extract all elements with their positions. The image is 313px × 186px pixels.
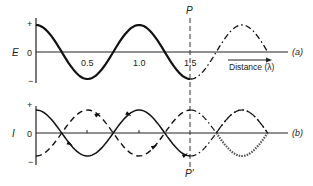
y-tick-plus-a: + (27, 19, 32, 29)
y-label-a: E (12, 47, 19, 58)
distance-label: Distance (λ) (229, 62, 275, 72)
y-tick-zero-a: 0 (27, 48, 32, 58)
y-label-b: I (12, 128, 15, 139)
y-tick-plus-b: + (27, 100, 32, 110)
i-wave-extension-lower (216, 110, 267, 133)
direction-arrowhead (94, 111, 101, 117)
x-tick-0-5: 0.5 (81, 58, 94, 68)
y-tick-minus-b: − (28, 157, 33, 167)
y-tick-minus-a: − (28, 76, 33, 86)
panel-a: E + 0 − 0.5 1.0 1.5 Distance (λ) (a) (12, 18, 303, 86)
marker-label-bottom: P′ (185, 168, 195, 179)
y-tick-zero-b: 0 (27, 129, 32, 139)
panel-b: I + 0 − (b) (12, 100, 303, 167)
standing-wave-diagram: E + 0 − 0.5 1.0 1.5 Distance (λ) (a) P P… (0, 0, 313, 186)
i-wave-extension-dotted (216, 133, 267, 156)
panel-a-tag: (a) (292, 47, 303, 57)
marker-label-top: P (186, 5, 193, 16)
x-tick-1-0: 1.0 (133, 58, 146, 68)
panel-b-tag: (b) (292, 128, 303, 138)
